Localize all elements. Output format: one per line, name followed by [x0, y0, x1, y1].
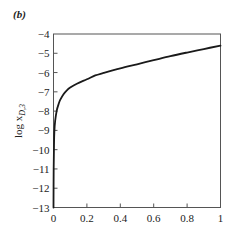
x-tick-label: 1 [218, 212, 224, 224]
chart: (b) 00.20.40.60.81 −4−5−6−7−8−9−10−11−12… [0, 0, 234, 232]
y-tick-label: −7 [38, 86, 50, 98]
x-tick-label: 0.4 [113, 212, 127, 224]
y-tick-label: −8 [38, 105, 50, 117]
y-tick-label: −6 [38, 67, 50, 79]
svg-text:log xD,3: log xD,3 [12, 104, 27, 138]
y-axis-label-main: log x [12, 115, 24, 138]
x-tick-label: 0.2 [80, 212, 94, 224]
y-tick-label: −10 [32, 144, 50, 156]
panel-label: (b) [13, 8, 26, 21]
y-tick-label: −11 [33, 163, 50, 175]
y-tick-label: −12 [32, 182, 49, 194]
data-line [54, 46, 221, 208]
y-axis-label: log xD,3 [12, 104, 27, 138]
x-axis-ticks: 00.20.40.60.81 [51, 204, 224, 224]
x-tick-label: 0.6 [147, 212, 161, 224]
y-tick-label: −9 [38, 124, 50, 136]
y-tick-label: −4 [38, 28, 50, 40]
plot-frame [54, 34, 221, 208]
y-tick-label: −5 [38, 47, 50, 59]
x-tick-label: 0.8 [180, 212, 194, 224]
y-axis-label-subscript: D,3 [18, 104, 27, 117]
y-tick-label: −13 [32, 202, 50, 214]
x-tick-label: 0 [51, 212, 57, 224]
